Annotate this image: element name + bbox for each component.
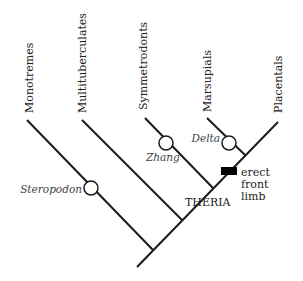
taxon-label-marsupials: Marsupials bbox=[201, 50, 214, 112]
fossil-label-delta: Delta bbox=[191, 132, 220, 144]
fossil-node-zhang bbox=[159, 136, 173, 150]
taxon-label-placentals: Placentals bbox=[272, 55, 285, 113]
fossil-node-delta bbox=[222, 136, 236, 150]
trait-label-line-3: limb bbox=[241, 190, 266, 203]
taxon-label-symmetrodonts: Symmetrodonts bbox=[137, 21, 150, 110]
taxon-label-monotremes: Monotremes bbox=[23, 42, 36, 113]
trait-marker bbox=[221, 167, 237, 175]
fossil-label-zhang: Zhang bbox=[145, 151, 180, 163]
fossil-node-steropodon bbox=[84, 181, 98, 195]
taxon-label-multituberculates: Multituberculates bbox=[76, 13, 89, 113]
fossil-label-steropodon: Steropodon bbox=[20, 183, 82, 195]
clade-label-theria: THERIA bbox=[185, 196, 232, 209]
branch-multituberculates bbox=[82, 120, 182, 220]
cladogram: Monotremes Multituberculates Symmetrodon… bbox=[0, 0, 303, 281]
